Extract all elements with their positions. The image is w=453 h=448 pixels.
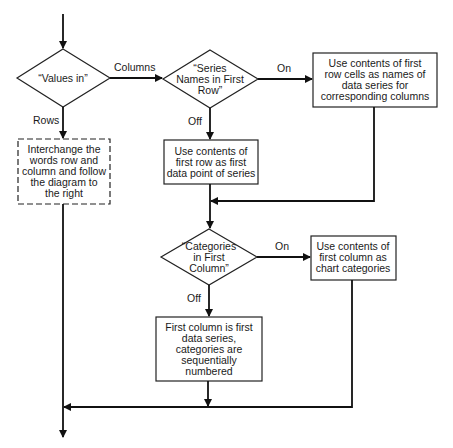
flowchart: “Values in” Columns Rows Interchange the…	[0, 0, 453, 448]
process-interchange: Interchange the words row and column and…	[18, 139, 110, 204]
decision-values-in: “Values in”	[17, 49, 110, 107]
process-first-column-series: First column is first data series, categ…	[156, 317, 262, 381]
edge-label-categories-on: On	[275, 240, 289, 252]
first-row-data-line-3: data point of series	[167, 167, 256, 179]
process-use-first-row-names: Use contents of first row cells as names…	[313, 53, 437, 107]
categories-line-3: Column”	[189, 262, 229, 274]
edge-label-columns: Columns	[114, 61, 155, 73]
edge-label-rows: Rows	[33, 114, 59, 126]
process-use-first-row-data: Use contents of first row as first data …	[164, 140, 258, 184]
decision-series-names: “Series Names in First Row”	[163, 50, 258, 108]
first-column-categories-line-3: chart categories	[316, 262, 391, 274]
interchange-line-5: the right	[45, 187, 83, 199]
first-column-series-line-5: numbered	[185, 365, 232, 377]
process-use-first-column-categories: Use contents of first column as chart ca…	[311, 236, 396, 280]
edge-label-series-off: Off	[188, 115, 202, 127]
decision-values-in-label: “Values in”	[38, 72, 88, 84]
first-row-names-line-4: corresponding columns	[321, 90, 430, 102]
edge-label-series-on: On	[277, 62, 291, 74]
edge-label-categories-off: Off	[187, 292, 201, 304]
decision-categories: “Categories in First Column”	[161, 229, 257, 285]
series-names-line-3: Row”	[198, 84, 223, 96]
